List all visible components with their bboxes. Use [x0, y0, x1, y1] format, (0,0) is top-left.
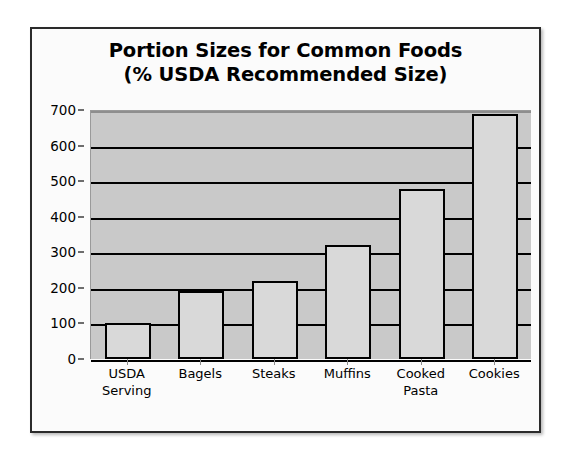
bars-layer — [91, 111, 531, 359]
x-tick-label: USDA Serving — [102, 365, 151, 400]
chart-title: Portion Sizes for Common Foods (% USDA R… — [32, 39, 539, 87]
bar — [472, 114, 518, 359]
x-axis: USDA ServingBagelsSteaksMuffinsCooked Pa… — [90, 365, 531, 411]
y-tick-label: 100 — [50, 315, 76, 331]
y-tick-mark — [78, 322, 84, 324]
y-tick-label: 200 — [50, 280, 76, 296]
y-tick-mark — [78, 180, 84, 182]
y-tick-mark — [78, 216, 84, 218]
y-tick-label: 300 — [50, 244, 76, 260]
x-tick-label: Muffins — [324, 365, 371, 382]
y-tick-label: 400 — [50, 209, 76, 225]
x-tick-label: Cooked Pasta — [397, 365, 445, 400]
y-axis: 7006005004003002001000 — [32, 110, 84, 359]
gridline — [91, 360, 531, 362]
y-tick-mark — [78, 145, 84, 147]
x-tick-label: Bagels — [178, 365, 222, 382]
bar — [325, 245, 371, 359]
y-tick-mark — [78, 251, 84, 253]
y-tick-label: 700 — [50, 102, 76, 118]
x-tick-mark — [127, 359, 128, 365]
x-tick-mark — [494, 359, 495, 365]
y-tick-mark — [78, 109, 84, 111]
y-tick-mark — [78, 358, 84, 360]
y-tick-label: 600 — [50, 138, 76, 154]
x-tick-mark — [274, 359, 275, 365]
x-tick-mark — [421, 359, 422, 365]
x-tick-label: Cookies — [469, 365, 520, 382]
x-tick-label: Steaks — [252, 365, 296, 382]
y-tick-mark — [78, 287, 84, 289]
y-tick-label: 0 — [67, 351, 76, 367]
x-tick-mark — [200, 359, 201, 365]
x-tick-mark — [347, 359, 348, 365]
bar — [178, 291, 224, 359]
bar — [105, 323, 151, 359]
y-tick-label: 500 — [50, 173, 76, 189]
chart-frame: Portion Sizes for Common Foods (% USDA R… — [30, 27, 541, 433]
plot-area — [90, 110, 531, 359]
bar — [252, 281, 298, 359]
bar — [399, 189, 445, 359]
